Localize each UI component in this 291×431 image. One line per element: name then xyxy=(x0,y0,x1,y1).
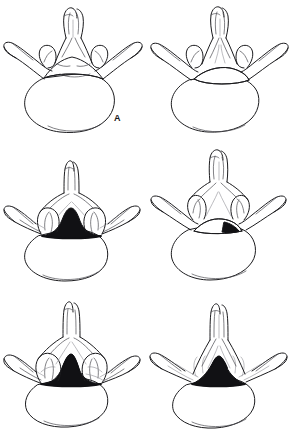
vertebra-drawing-d xyxy=(146,144,291,287)
vertebra-drawing-f xyxy=(146,288,291,431)
vertebra-drawing-a xyxy=(0,0,145,143)
vertebra-drawing-b xyxy=(146,0,291,143)
vertebra-drawing-e xyxy=(0,288,145,431)
panel-c: C xyxy=(0,144,145,287)
panel-b: B xyxy=(146,0,291,143)
figure-plate: A xyxy=(0,0,291,431)
panel-a: A xyxy=(0,0,145,143)
panel-label-a: A xyxy=(114,114,121,123)
panel-f: F xyxy=(146,288,291,431)
panel-d: D xyxy=(146,144,291,287)
vertebra-drawing-c xyxy=(0,144,145,287)
panel-e: E xyxy=(0,288,145,431)
